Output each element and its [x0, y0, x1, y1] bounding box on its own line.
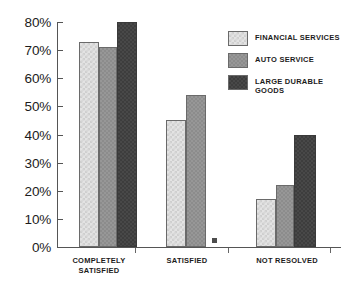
legend-item-financial-services: FINANCIAL SERVICES [228, 31, 340, 46]
y-axis-label-30: 30% [25, 155, 51, 170]
y-axis-label-20: 20% [25, 183, 51, 198]
x-tick-separator-2 [228, 248, 229, 253]
y-axis-label-10: 10% [25, 211, 51, 226]
bar-chart: 80% 70% 60% 50% 40% 30% 20% 10% 0% COM [0, 0, 353, 291]
bar-satisfied-financial-services [166, 120, 186, 247]
x-axis-category-completely-satisfied: COMPLETELY SATISFIED [49, 256, 149, 276]
legend-swatch-financial-services [228, 31, 248, 46]
x-axis-line [57, 247, 341, 248]
x-axis-category-not-resolved: NOT RESOLVED [239, 256, 335, 266]
legend-swatch-large-durable-goods [228, 75, 248, 90]
legend-item-large-durable-goods: LARGE DURABLE GOODS [228, 75, 340, 90]
bar-not-resolved-auto-service [276, 185, 294, 247]
legend-label-financial-services: FINANCIAL SERVICES [255, 31, 340, 43]
y-axis-label-50: 50% [25, 99, 51, 114]
bar-not-resolved-financial-services [256, 199, 276, 247]
bar-completely-satisfied-large-durable-goods [117, 22, 137, 247]
bar-not-resolved-large-durable-goods [294, 135, 316, 248]
bar-completely-satisfied-financial-services [79, 42, 99, 247]
x-axis-category-satisfied: SATISFIED [142, 256, 232, 266]
y-axis-labels: 80% 70% 60% 50% 40% 30% 20% 10% 0% [0, 22, 51, 248]
legend-swatch-auto-service [228, 53, 248, 68]
x-tick-separator-1 [135, 248, 136, 253]
x-tick-separator-3 [330, 248, 331, 253]
bar-completely-satisfied-auto-service [99, 47, 117, 247]
legend-item-auto-service: AUTO SERVICE [228, 53, 340, 68]
y-axis-label-70: 70% [25, 43, 51, 58]
legend-label-auto-service: AUTO SERVICE [255, 53, 314, 65]
y-axis-label-60: 60% [25, 71, 51, 86]
legend: FINANCIAL SERVICES AUTO SERVICE LARGE DU… [228, 31, 340, 97]
y-axis-label-40: 40% [25, 127, 51, 142]
legend-label-large-durable-goods: LARGE DURABLE GOODS [255, 75, 323, 95]
footnote-asterisk-icon [212, 238, 217, 243]
bar-satisfied-auto-service [186, 95, 206, 247]
y-axis-label-0: 0% [32, 240, 51, 255]
y-axis-label-80: 80% [25, 15, 51, 30]
